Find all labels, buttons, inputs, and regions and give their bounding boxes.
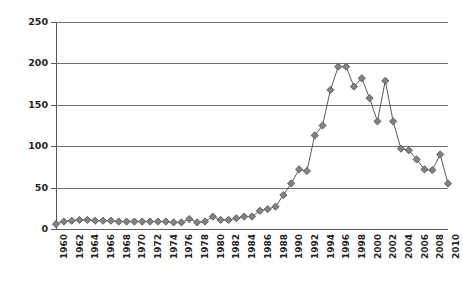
data-point-2008: [429, 167, 436, 174]
y-tick-label-100: 100: [8, 141, 48, 151]
data-point-1964: [84, 216, 91, 223]
series-polyline: [56, 67, 448, 224]
data-point-1963: [76, 216, 83, 223]
x-tick-label-1982: 1982: [232, 234, 241, 259]
data-point-1979: [201, 218, 208, 225]
x-tick-label-1978: 1978: [201, 234, 210, 259]
x-tick-label-2002: 2002: [389, 234, 398, 259]
x-tick-label-1990: 1990: [295, 234, 304, 259]
data-point-1985: [248, 213, 255, 220]
data-point-1977: [186, 215, 193, 222]
x-tick-label-1972: 1972: [154, 234, 163, 259]
x-tick-label-1976: 1976: [185, 234, 194, 259]
data-point-1995: [327, 86, 334, 93]
data-point-1980: [209, 213, 216, 220]
data-point-2010: [444, 180, 451, 187]
data-point-1968: [115, 218, 122, 225]
data-point-1981: [217, 216, 224, 223]
x-tick-label-2000: 2000: [374, 234, 383, 259]
data-point-1961: [60, 218, 67, 225]
plot-area: 050100150200250 196019621964196619681970…: [56, 22, 448, 229]
data-point-2002: [382, 77, 389, 84]
data-point-2004: [397, 145, 404, 152]
data-point-1967: [107, 217, 114, 224]
x-tick-label-1994: 1994: [327, 234, 336, 259]
y-tick-mark-0: [51, 229, 56, 230]
data-point-1965: [92, 217, 99, 224]
data-point-1969: [123, 218, 130, 225]
x-tick-label-1980: 1980: [217, 234, 226, 259]
x-tick-label-1970: 1970: [138, 234, 147, 259]
x-tick-label-2008: 2008: [436, 234, 445, 259]
x-tick-label-2010: 2010: [452, 234, 461, 259]
data-point-2003: [390, 118, 397, 125]
x-tick-label-1996: 1996: [342, 234, 351, 259]
x-tick-label-1966: 1966: [107, 234, 116, 259]
x-tick-label-1968: 1968: [123, 234, 132, 259]
data-point-1975: [170, 219, 177, 226]
data-point-1990: [288, 180, 295, 187]
gridline-0: [56, 229, 448, 230]
data-point-1988: [272, 203, 279, 210]
data-point-2000: [366, 95, 373, 102]
data-point-1966: [99, 217, 106, 224]
data-point-1989: [280, 191, 287, 198]
data-point-1991: [295, 166, 302, 173]
data-point-1960: [52, 220, 59, 227]
data-point-1983: [233, 215, 240, 222]
data-point-1992: [303, 167, 310, 174]
y-tick-label-150: 150: [8, 100, 48, 110]
data-point-1974: [162, 218, 169, 225]
data-point-2001: [374, 118, 381, 125]
data-point-1962: [68, 217, 75, 224]
x-tick-label-1988: 1988: [280, 234, 289, 259]
y-tick-label-50: 50: [8, 183, 48, 193]
data-point-1982: [225, 216, 232, 223]
data-point-1986: [256, 207, 263, 214]
data-series-line: [56, 22, 448, 229]
chart-container: 050100150200250 196019621964196619681970…: [0, 0, 463, 282]
data-point-1971: [139, 218, 146, 225]
data-point-1997: [342, 63, 349, 70]
x-tick-label-1964: 1964: [91, 234, 100, 259]
data-point-2009: [437, 151, 444, 158]
x-tick-label-2006: 2006: [421, 234, 430, 259]
x-tick-label-1960: 1960: [60, 234, 69, 259]
data-point-1973: [154, 218, 161, 225]
y-tick-label-250: 250: [8, 17, 48, 27]
data-point-1987: [264, 206, 271, 213]
data-point-1996: [335, 63, 342, 70]
data-point-1972: [146, 218, 153, 225]
x-tick-label-1992: 1992: [311, 234, 320, 259]
data-point-1978: [194, 219, 201, 226]
x-tick-label-2004: 2004: [405, 234, 414, 259]
x-tick-label-1986: 1986: [264, 234, 273, 259]
x-tick-label-1998: 1998: [358, 234, 367, 259]
x-tick-label-1974: 1974: [170, 234, 179, 259]
data-point-1970: [131, 218, 138, 225]
x-tick-label-1984: 1984: [248, 234, 257, 259]
data-point-1984: [241, 213, 248, 220]
y-tick-label-200: 200: [8, 58, 48, 68]
y-tick-label-0: 0: [8, 224, 48, 234]
data-point-1976: [178, 219, 185, 226]
x-tick-label-1962: 1962: [76, 234, 85, 259]
